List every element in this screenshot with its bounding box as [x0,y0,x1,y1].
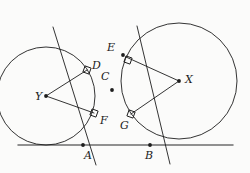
radius-segment-XG [131,81,179,114]
right-angle-group [83,56,135,118]
point-B [148,143,152,147]
label-G: G [120,120,129,131]
radius-segment-XE [126,57,179,81]
circle-group [0,23,237,145]
label-F: F [100,115,108,126]
geometry-figure: Y X D C E F G A B [0,0,250,173]
point-X [177,79,181,83]
tangent-line-right [137,26,170,164]
label-X: X [185,74,193,85]
point-E [121,53,125,57]
label-E: E [107,42,115,53]
label-B: B [145,150,153,161]
label-D: D [92,60,101,71]
label-Y: Y [35,91,42,102]
point-A [81,143,85,147]
radius-segment-YF [46,96,94,113]
radius-segment-YD [46,70,87,96]
point-Y [44,94,48,98]
geometry-canvas [0,0,250,173]
label-C: C [101,71,109,82]
point-C [110,88,114,92]
point-group [44,53,181,147]
label-A: A [84,150,92,161]
